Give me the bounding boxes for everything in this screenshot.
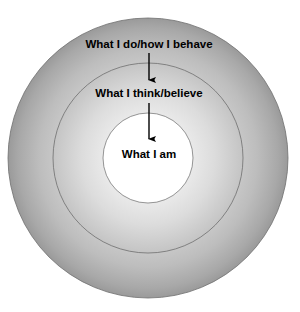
concentric-circles-diagram: What I do/how I behave What I think/beli… bbox=[0, 0, 300, 312]
outer-ring-label: What I do/how I behave bbox=[85, 38, 212, 50]
inner-ring-label: What I am bbox=[122, 148, 176, 160]
diagram-canvas: What I do/how I behave What I think/beli… bbox=[0, 0, 300, 312]
middle-ring-label: What I think/believe bbox=[95, 87, 202, 99]
